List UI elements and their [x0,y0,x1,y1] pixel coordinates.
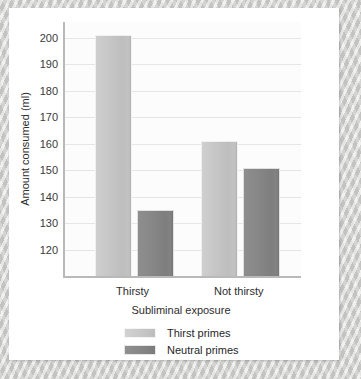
x-axis-title: Subliminal exposure [63,304,299,316]
y-tick-label: 200 [40,32,58,43]
plot-area: 120130140150160170180190200 [63,22,301,278]
bar-not-thirsty-neutral-primes [243,168,280,276]
x-tick-label: Thirsty [116,285,149,297]
y-tick-label: 140 [40,191,58,202]
legend-item-label: Neutral primes [167,344,239,356]
y-tick-label: 170 [40,112,58,123]
bar-thirsty-neutral-primes [137,210,174,276]
bar-thirsty-thirst-primes [95,35,132,276]
y-axis-title-text: Amount consumed (ml) [19,92,31,206]
y-tick-label: 180 [40,85,58,96]
legend-item-label: Thirst primes [167,327,231,339]
legend-item: Thirst primes [63,324,313,341]
y-tick-label: 150 [40,165,58,176]
figure-card: Amount consumed (ml) 1201301401501601701… [9,8,339,360]
bar-not-thirsty-thirst-primes [201,141,238,276]
x-tick-label: Not thirsty [214,285,264,297]
legend-item: Neutral primes [63,341,313,358]
plot-inner: 120130140150160170180190200 [65,22,301,276]
y-tick-label: 120 [40,244,58,255]
y-tick-label: 160 [40,138,58,149]
chart-legend: Thirst primesNeutral primes [63,324,313,358]
dark-grey-swatch [124,345,156,355]
light-grey-swatch [124,328,156,338]
y-tick-label: 190 [40,59,58,70]
y-axis-title: Amount consumed (ml) [17,22,33,276]
y-tick-label: 130 [40,218,58,229]
